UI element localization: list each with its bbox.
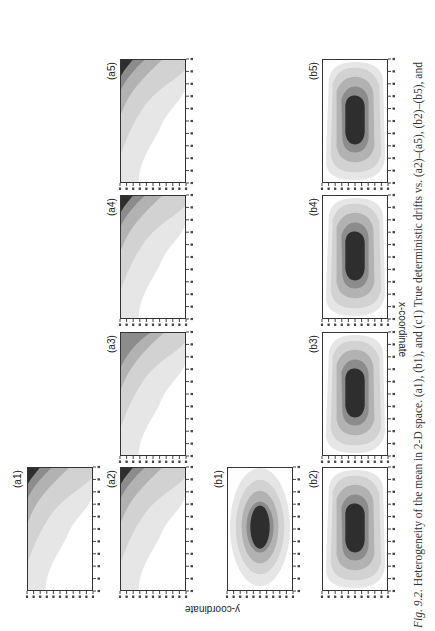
caption-text: Heterogeneity of the mean in 2-D space. … <box>412 62 424 589</box>
panel-a1 <box>27 467 93 591</box>
panel-b4 <box>322 195 388 319</box>
panel-label-b1: (b1) <box>213 470 224 488</box>
panel-a4 <box>120 195 186 319</box>
figure-caption: Fig. 9.2. Heterogeneity of the mean in 2… <box>412 0 424 628</box>
panel-label-a2: (a2) <box>106 470 117 488</box>
panel-a3 <box>120 332 186 456</box>
caption-prefix: Fig. 9.2. <box>412 589 424 628</box>
x-axis-title: x-coordinate <box>397 302 408 357</box>
panel-b5 <box>322 59 388 183</box>
panel-a2 <box>120 467 186 591</box>
panel-label-a1: (a1) <box>12 470 23 488</box>
panel-label-a5: (a5) <box>106 62 117 80</box>
panel-b3 <box>322 332 388 456</box>
panel-label-a3: (a3) <box>106 335 117 353</box>
panel-a5 <box>120 59 186 183</box>
panel-label-a4: (a4) <box>106 198 117 216</box>
y-axis-title: y-coordinate <box>185 604 240 615</box>
panel-b1 <box>227 467 293 591</box>
panel-label-b2: (b2) <box>308 470 319 488</box>
panel-label-b3: (b3) <box>308 335 319 353</box>
panel-b2 <box>322 467 388 591</box>
panel-label-b5: (b5) <box>308 62 319 80</box>
panel-label-b4: (b4) <box>308 198 319 216</box>
